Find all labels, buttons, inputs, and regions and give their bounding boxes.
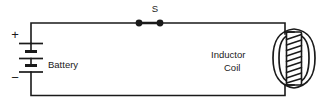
wire-top-left [31,23,139,44]
switch-terminal-left[interactable] [136,20,143,27]
wire-top-right [160,23,285,34]
circuit-schematic-svg: S Battery Inductor Coil + − [0,0,317,107]
positive-terminal-label: + [11,27,19,42]
wire-bottom [31,72,285,96]
switch-terminal-right[interactable] [157,20,164,27]
circuit-diagram: S Battery Inductor Coil + − [0,0,317,107]
inductor-label-line2: Coil [224,62,240,73]
battery-symbol [19,44,43,73]
battery-label: Battery [48,59,78,70]
inductor-label-line1: Inductor [211,49,245,60]
switch-label: S [152,3,158,14]
switch-symbol[interactable] [136,20,164,27]
inductor-coil-symbol [273,29,315,88]
negative-terminal-label: − [11,70,19,85]
